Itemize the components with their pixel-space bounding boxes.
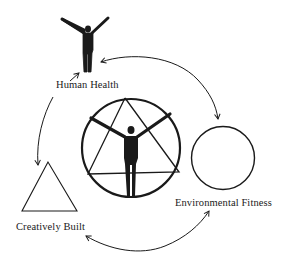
label-environmental-fitness: Environmental Fitness bbox=[175, 197, 272, 208]
arrow-built-environment bbox=[86, 211, 209, 251]
label-creatively-built: Creatively Built bbox=[16, 221, 85, 232]
human-figure-icon bbox=[62, 18, 108, 72]
triangle-icon bbox=[22, 162, 77, 211]
circle-icon bbox=[192, 127, 255, 190]
figure-in-triangle-in-circle-icon bbox=[82, 98, 180, 197]
arrow-health-built bbox=[38, 97, 53, 165]
label-human-health: Human Health bbox=[56, 79, 119, 90]
